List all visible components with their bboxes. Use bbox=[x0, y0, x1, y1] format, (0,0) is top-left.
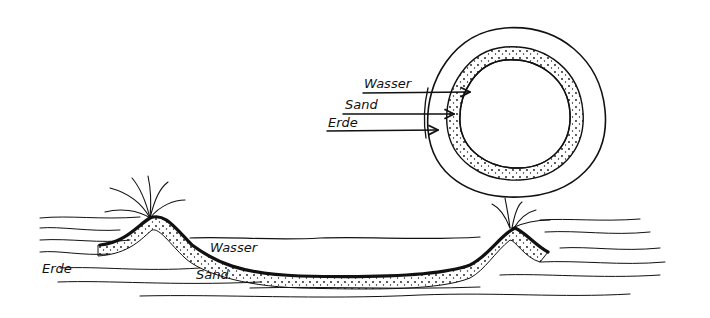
section-label-erde: Erde bbox=[42, 261, 72, 276]
top-label-erde: Erde bbox=[328, 115, 358, 130]
water-surface bbox=[190, 237, 480, 239]
top-view: Wasser Sand Erde bbox=[327, 28, 605, 197]
plant-left bbox=[105, 176, 185, 218]
top-label-sand: Sand bbox=[345, 97, 378, 112]
erde-arrow bbox=[327, 130, 438, 131]
section-label-wasser: Wasser bbox=[210, 240, 259, 255]
water-area bbox=[460, 60, 570, 168]
wasser-arrow bbox=[363, 92, 470, 93]
top-label-wasser: Wasser bbox=[364, 76, 413, 91]
sand-layer bbox=[98, 217, 548, 289]
plant-right bbox=[492, 198, 550, 228]
cross-section: Wasser Sand Erde bbox=[40, 176, 665, 297]
sand-ring bbox=[447, 47, 583, 180]
section-label-sand: Sand bbox=[196, 267, 229, 282]
pond-diagram: Wasser Sand Erde bbox=[0, 0, 710, 318]
